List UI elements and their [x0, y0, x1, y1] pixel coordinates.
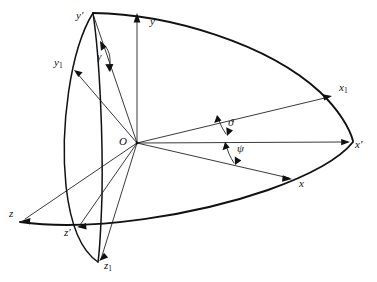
ray-to-x [137, 143, 289, 178]
great-circle-arc-upper [93, 13, 353, 141]
axis-label-z-prime: z′ [64, 227, 71, 238]
arrowhead-y-one [74, 70, 83, 77]
theta-angle-label: ϑ [228, 117, 233, 128]
axis-label-y-one: y1 [54, 57, 63, 69]
origin-point [136, 142, 139, 145]
axis-label-x: x [299, 178, 304, 189]
arrowhead-psi-end [223, 142, 230, 150]
axis-label-y-prime: y′ [76, 10, 83, 21]
arrowhead-x-prime [341, 139, 350, 145]
axis-label-z-base: z [9, 207, 13, 219]
axis-label-x-base: x [299, 177, 304, 189]
gamma-angle-label: γ [97, 51, 101, 62]
axis-label-x-prime: x′ [355, 139, 362, 150]
axis-label-x-one-sub: 1 [344, 86, 348, 95]
origin-label: O [119, 136, 127, 147]
axis-label-z-one: z1 [104, 260, 112, 272]
axis-label-y: y [150, 16, 155, 27]
arrowhead-theta-end [214, 115, 221, 123]
axis-label-z: z [9, 208, 13, 219]
euler-angles-figure: O y′ y y1 x1 x′ x z z′ z1 γ ϑ ψ [0, 0, 377, 282]
arrowhead-y [134, 13, 141, 23]
axis-label-x-one: x1 [339, 82, 348, 94]
ray-to-y-one [76, 72, 137, 143]
arrowhead-theta-start [226, 127, 233, 136]
axis-label-z-prime-mark: ′ [68, 226, 70, 238]
ray-to-z-one [101, 143, 137, 259]
axis-label-y-prime-mark: ′ [81, 9, 83, 21]
axis-label-y-base: y [150, 15, 155, 27]
axis-label-z-one-sub: 1 [108, 264, 112, 273]
axis-label-y-one-sub: 1 [59, 61, 63, 70]
psi-angle-label: ψ [237, 143, 244, 154]
diagram-canvas [0, 0, 377, 282]
arrowhead-psi-start [235, 157, 242, 166]
ray-to-z-prime [80, 143, 137, 225]
axis-label-x-prime-mark: ′ [360, 138, 362, 150]
ray-to-z [25, 143, 137, 219]
